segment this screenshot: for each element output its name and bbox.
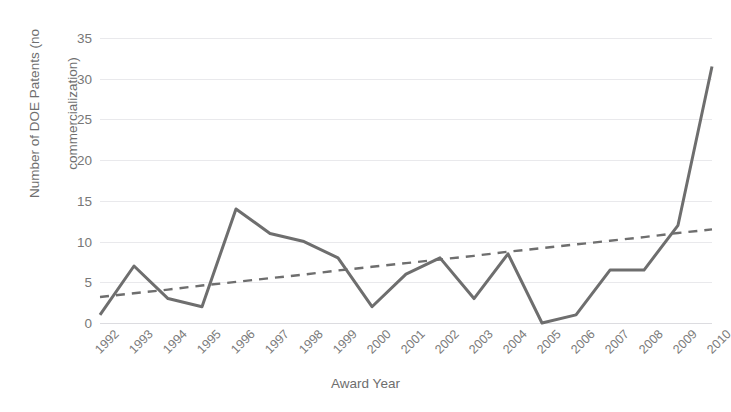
y-tick-label-5: 5 bbox=[52, 275, 92, 290]
x-tick-label-1999: 1999 bbox=[330, 327, 360, 357]
x-tick-label-1998: 1998 bbox=[296, 327, 326, 357]
plot-area bbox=[100, 38, 712, 323]
y-tick-label-0: 0 bbox=[52, 316, 92, 331]
x-tick-label-2010: 2010 bbox=[704, 327, 731, 357]
x-tick-label-2003: 2003 bbox=[466, 327, 496, 357]
y-tick-label-15: 15 bbox=[52, 193, 92, 208]
data-line-path bbox=[100, 67, 712, 324]
x-tick-label-2009: 2009 bbox=[670, 327, 700, 357]
x-tick-label-1992: 1992 bbox=[92, 327, 122, 357]
x-tick-label-2008: 2008 bbox=[636, 327, 666, 357]
x-tick-label-2002: 2002 bbox=[432, 327, 462, 357]
x-tick-label-2004: 2004 bbox=[500, 327, 530, 357]
trendline-path bbox=[100, 229, 712, 297]
series-lines bbox=[100, 38, 712, 323]
line-chart: Number of DOE Patents (no commercializat… bbox=[0, 0, 731, 412]
x-axis-title: Award Year bbox=[0, 376, 731, 391]
y-tick-label-30: 30 bbox=[52, 71, 92, 86]
x-tick-label-2001: 2001 bbox=[398, 327, 428, 357]
x-tick-label-1996: 1996 bbox=[228, 327, 258, 357]
x-tick-label-2000: 2000 bbox=[364, 327, 394, 357]
x-tick-label-1994: 1994 bbox=[160, 327, 190, 357]
y-tick-label-20: 20 bbox=[52, 153, 92, 168]
y-axis-title-line-1: Number of DOE Patents (no bbox=[25, 0, 44, 259]
x-tick-label-2005: 2005 bbox=[534, 327, 564, 357]
gridline-0 bbox=[100, 323, 712, 324]
x-tick-label-2007: 2007 bbox=[602, 327, 632, 357]
x-tick-label-2006: 2006 bbox=[568, 327, 598, 357]
x-axis-tick-labels: 1992199319941995199619971998199920002001… bbox=[100, 327, 712, 382]
y-axis-tick-labels: 05101520253035 bbox=[52, 38, 92, 323]
x-tick-label-1997: 1997 bbox=[262, 327, 292, 357]
y-tick-label-25: 25 bbox=[52, 112, 92, 127]
y-tick-label-35: 35 bbox=[52, 31, 92, 46]
y-tick-label-10: 10 bbox=[52, 234, 92, 249]
x-tick-label-1995: 1995 bbox=[194, 327, 224, 357]
x-tick-label-1993: 1993 bbox=[126, 327, 156, 357]
